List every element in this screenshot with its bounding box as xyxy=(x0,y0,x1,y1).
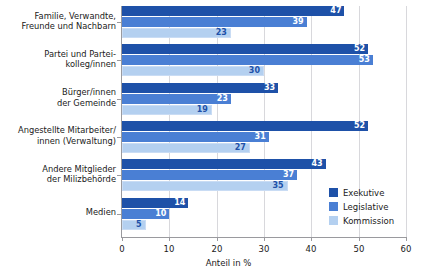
category-label-line: Familie, Verwandte, xyxy=(4,11,116,22)
legend-label: Kommission xyxy=(343,216,394,226)
x-axis-tick-label-30: 30 xyxy=(259,244,270,254)
bar-kommission-4: 35 xyxy=(122,181,288,191)
bar-value-label: 52 xyxy=(354,122,365,130)
bar-kommission-2: 19 xyxy=(122,105,212,115)
x-axis-tick-label-20: 20 xyxy=(212,244,223,254)
category-label-0: Familie, Verwandte,Freunde und Nachbarn xyxy=(4,11,116,32)
bar-legislative-5: 10 xyxy=(122,209,169,219)
bar-row: 52 xyxy=(122,44,368,54)
category-label-line: kolleg/innen xyxy=(4,59,116,70)
legend-swatch-icon xyxy=(329,188,338,197)
legend: ExekutiveLegislativeKommission xyxy=(329,186,394,228)
x-axis-tick-label-60: 60 xyxy=(401,244,412,254)
bar-row: 37 xyxy=(122,170,297,180)
legend-item-exekutive[interactable]: Exekutive xyxy=(329,186,394,199)
bar-legislative-2: 23 xyxy=(122,94,231,104)
legend-item-kommission[interactable]: Kommission xyxy=(329,214,394,227)
y-axis-tick-5 xyxy=(117,214,122,215)
bar-chart: 47392352533033231952312743373514105 Fami… xyxy=(0,0,421,272)
x-axis-tick-label-50: 50 xyxy=(354,244,365,254)
x-axis-tick-0 xyxy=(122,237,123,241)
bar-value-label: 14 xyxy=(174,199,185,207)
bar-legislative-1: 53 xyxy=(122,55,373,65)
bar-exekutive-0: 47 xyxy=(122,6,344,16)
x-axis-title: Anteil in % xyxy=(0,258,421,268)
bar-value-label: 33 xyxy=(264,84,275,92)
x-axis-tick-20 xyxy=(217,237,218,241)
y-axis-line xyxy=(121,6,122,238)
x-axis-tick-60 xyxy=(406,237,407,241)
bar-legislative-3: 31 xyxy=(122,132,269,142)
y-axis-tick-1 xyxy=(117,60,122,61)
legend-label: Legislative xyxy=(343,202,389,212)
category-label-line: Bürger/innen xyxy=(4,87,116,98)
bar-value-label: 39 xyxy=(292,18,303,26)
x-axis-tick-40 xyxy=(311,237,312,241)
bar-exekutive-3: 52 xyxy=(122,121,368,131)
bar-value-label: 5 xyxy=(136,221,142,229)
bar-value-label: 23 xyxy=(216,29,227,37)
bar-row: 30 xyxy=(122,66,264,76)
y-axis-tick-0 xyxy=(117,22,122,23)
bar-row: 53 xyxy=(122,55,373,65)
bar-value-label: 30 xyxy=(249,67,260,75)
category-label-5: Medien xyxy=(4,207,116,218)
category-label-line: Freunde und Nachbarn xyxy=(4,21,116,32)
x-axis-tick-50 xyxy=(359,237,360,241)
y-axis-tick-3 xyxy=(117,137,122,138)
category-label-line: der Milizbehörde xyxy=(4,174,116,185)
category-label-2: Bürger/innender Gemeinde xyxy=(4,87,116,108)
bar-row: 10 xyxy=(122,209,169,219)
bar-kommission-1: 30 xyxy=(122,66,264,76)
x-axis-tick-10 xyxy=(169,237,170,241)
bar-row: 52 xyxy=(122,121,368,131)
bar-value-label: 47 xyxy=(330,7,341,15)
bar-kommission-3: 27 xyxy=(122,143,250,153)
x-axis-tick-label-10: 10 xyxy=(164,244,175,254)
bar-row: 39 xyxy=(122,17,307,27)
category-label-3: Angestellte Mitarbeiter/innen (Verwaltun… xyxy=(4,125,116,146)
bar-value-label: 52 xyxy=(354,45,365,53)
bar-row: 31 xyxy=(122,132,269,142)
bar-kommission-0: 23 xyxy=(122,28,231,38)
bar-value-label: 31 xyxy=(255,133,266,141)
bar-exekutive-5: 14 xyxy=(122,198,188,208)
bar-row: 5 xyxy=(122,220,146,230)
category-label-line: Partei und Partei- xyxy=(4,49,116,60)
bar-legislative-0: 39 xyxy=(122,17,307,27)
bar-row: 14 xyxy=(122,198,188,208)
bar-row: 23 xyxy=(122,94,231,104)
legend-label: Exekutive xyxy=(343,188,384,198)
bar-row: 19 xyxy=(122,105,212,115)
bar-value-label: 10 xyxy=(155,210,166,218)
bar-row: 43 xyxy=(122,159,326,169)
bar-value-label: 35 xyxy=(273,182,284,190)
bar-row: 27 xyxy=(122,143,250,153)
bar-value-label: 23 xyxy=(217,95,228,103)
bar-value-label: 19 xyxy=(197,106,208,114)
bar-row: 23 xyxy=(122,28,231,38)
y-axis-tick-4 xyxy=(117,175,122,176)
legend-item-legislative[interactable]: Legislative xyxy=(329,200,394,213)
bar-value-label: 27 xyxy=(235,144,246,152)
legend-swatch-icon xyxy=(329,202,338,211)
x-axis-tick-label-40: 40 xyxy=(306,244,317,254)
bar-value-label: 53 xyxy=(359,56,370,64)
bar-value-label: 37 xyxy=(283,171,294,179)
bar-exekutive-4: 43 xyxy=(122,159,326,169)
bar-row: 33 xyxy=(122,83,278,93)
category-label-line: Andere Mitglieder xyxy=(4,164,116,175)
bar-exekutive-1: 52 xyxy=(122,44,368,54)
category-label-line: Angestellte Mitarbeiter/ xyxy=(4,125,116,136)
legend-swatch-icon xyxy=(329,216,338,225)
x-axis-tick-label-0: 0 xyxy=(119,244,124,254)
gridline-60 xyxy=(406,6,407,237)
bar-value-label: 43 xyxy=(311,160,322,168)
category-label-line: Medien xyxy=(4,207,116,218)
x-axis-title-text: Anteil in % xyxy=(206,258,252,268)
x-axis-tick-30 xyxy=(264,237,265,241)
bar-kommission-5: 5 xyxy=(122,220,146,230)
category-label-line: der Gemeinde xyxy=(4,98,116,109)
bar-legislative-4: 37 xyxy=(122,170,297,180)
bar-row: 35 xyxy=(122,181,288,191)
